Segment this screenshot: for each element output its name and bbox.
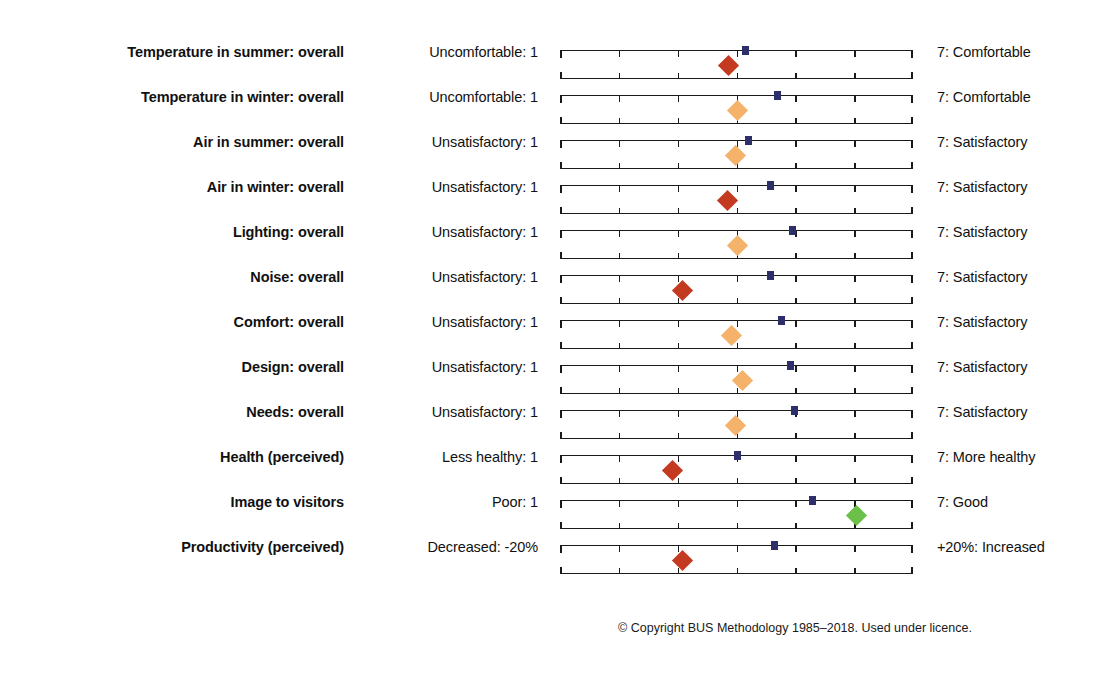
axis-tick	[678, 478, 680, 484]
axis-tick	[678, 388, 680, 394]
axis-tick	[911, 51, 913, 58]
axis-tick	[911, 207, 913, 214]
axis-tick	[911, 432, 913, 439]
row-variable-label: Noise: overall	[0, 268, 344, 286]
score-marker-neutral	[725, 415, 746, 436]
axis-tick	[911, 321, 913, 328]
axis-tick	[619, 433, 621, 439]
axis-tick	[737, 501, 739, 507]
benchmark-marker	[789, 226, 796, 235]
row-variable-label: Health (perceived)	[0, 448, 344, 466]
row-variable-label: Temperature in summer: overall	[0, 43, 344, 61]
axis-tick	[737, 568, 739, 574]
axis-tick	[737, 546, 739, 552]
row-anchor-high: 7: Good	[937, 493, 1114, 511]
benchmark-marker	[767, 271, 774, 280]
axis-tick	[911, 342, 913, 349]
axis-tick	[560, 456, 562, 463]
row-anchor-high: 7: Satisfactory	[937, 268, 1114, 286]
row-scale-axis	[560, 95, 913, 124]
axis-tick	[678, 96, 680, 102]
axis-tick	[560, 51, 562, 58]
score-marker-neutral	[721, 325, 742, 346]
axis-tick	[911, 117, 913, 124]
benchmark-marker	[791, 406, 798, 415]
axis-tick	[678, 546, 680, 552]
axis-tick	[795, 73, 797, 79]
axis-tick	[795, 141, 797, 147]
axis-tick	[619, 141, 621, 147]
axis-tick	[560, 207, 562, 214]
row-anchor-low: Uncomfortable: 1	[360, 43, 538, 61]
axis-tick	[619, 231, 621, 237]
chart-row: Image to visitorsPoor: 17: Good	[0, 489, 1114, 529]
axis-tick	[854, 276, 856, 282]
axis-tick	[795, 523, 797, 529]
benchmark-marker	[778, 316, 785, 325]
axis-tick	[795, 456, 797, 462]
axis-tick	[560, 72, 562, 79]
axis-tick	[560, 366, 562, 373]
axis-tick	[560, 231, 562, 238]
axis-tick	[678, 366, 680, 372]
axis-tick	[560, 432, 562, 439]
axis-tick	[619, 96, 621, 102]
copyright-notice: © Copyright BUS Methodology 1985–2018. U…	[560, 620, 1030, 636]
row-anchor-high: 7: Comfortable	[937, 88, 1114, 106]
row-anchor-low: Decreased: -20%	[360, 538, 538, 556]
axis-tick	[911, 366, 913, 373]
chart-row: Noise: overallUnsatisfactory: 17: Satisf…	[0, 264, 1114, 304]
chart-row: Temperature in summer: overallUncomforta…	[0, 39, 1114, 79]
axis-tick	[854, 456, 856, 462]
score-marker-neutral	[726, 100, 747, 121]
axis-tick	[619, 478, 621, 484]
score-marker-poor	[662, 460, 683, 481]
benchmark-marker	[734, 451, 741, 460]
axis-tick	[795, 276, 797, 282]
row-scale-axis	[560, 230, 913, 259]
axis-tick	[678, 501, 680, 507]
axis-tick	[795, 118, 797, 124]
axis-tick	[911, 477, 913, 484]
axis-tick	[911, 297, 913, 304]
score-marker-poor	[716, 190, 737, 211]
row-variable-label: Air in summer: overall	[0, 133, 344, 151]
axis-tick	[678, 456, 680, 462]
row-scale-axis	[560, 410, 913, 439]
axis-tick	[737, 73, 739, 79]
chart-row: Design: overallUnsatisfactory: 17: Satis…	[0, 354, 1114, 394]
axis-tick	[678, 141, 680, 147]
axis-tick	[854, 51, 856, 57]
axis-tick	[678, 276, 680, 282]
axis-tick	[854, 118, 856, 124]
axis-tick	[854, 298, 856, 304]
axis-tick	[678, 118, 680, 124]
axis-tick	[854, 163, 856, 169]
axis-tick	[854, 343, 856, 349]
axis-tick	[619, 523, 621, 529]
row-scale-axis	[560, 545, 913, 574]
axis-tick	[619, 366, 621, 372]
axis-tick	[560, 477, 562, 484]
axis-tick	[678, 231, 680, 237]
benchmark-marker	[787, 361, 794, 370]
axis-tick	[854, 96, 856, 102]
axis-tick	[911, 186, 913, 193]
row-anchor-low: Unsatisfactory: 1	[360, 178, 538, 196]
benchmark-marker	[742, 46, 749, 55]
row-anchor-low: Unsatisfactory: 1	[360, 133, 538, 151]
row-anchor-high: 7: Satisfactory	[937, 223, 1114, 241]
axis-tick	[795, 433, 797, 439]
axis-tick	[619, 568, 621, 574]
row-anchor-low: Unsatisfactory: 1	[360, 358, 538, 376]
axis-tick	[795, 96, 797, 102]
axis-tick	[795, 208, 797, 214]
chart-row: Needs: overallUnsatisfactory: 17: Satisf…	[0, 399, 1114, 439]
row-scale-axis	[560, 140, 913, 169]
axis-tick	[737, 276, 739, 282]
axis-tick	[678, 208, 680, 214]
axis-tick	[737, 208, 739, 214]
axis-tick	[560, 276, 562, 283]
axis-tick	[854, 231, 856, 237]
row-anchor-high: 7: Satisfactory	[937, 178, 1114, 196]
